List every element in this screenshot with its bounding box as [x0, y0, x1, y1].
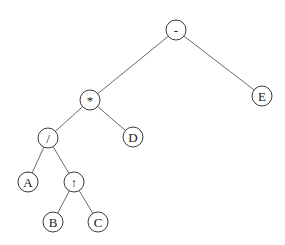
edge-minus-E — [184, 36, 254, 90]
tree-node-D: D — [123, 127, 143, 147]
tree-node-E: E — [252, 86, 272, 106]
node-label: ↑ — [71, 175, 78, 190]
edge-pow-C — [79, 191, 93, 214]
node-label: E — [258, 89, 266, 104]
node-label: / — [46, 131, 50, 146]
expression-tree-diagram: -*E/DA↑BC — [0, 0, 285, 245]
edge-mul-D — [98, 107, 126, 131]
tree-node-div: / — [38, 128, 58, 148]
edge-div-A — [32, 147, 44, 173]
node-label: - — [174, 23, 178, 38]
edge-pow-B — [58, 191, 70, 213]
nodes-layer: -*E/DA↑BC — [18, 20, 272, 232]
node-label: B — [49, 215, 58, 230]
edge-div-pow — [53, 147, 69, 174]
edge-mul-div — [55, 107, 82, 132]
edge-minus-mul — [98, 36, 168, 93]
node-label: A — [23, 175, 33, 190]
tree-node-C: C — [88, 212, 108, 232]
node-label: C — [94, 215, 103, 230]
tree-node-minus: - — [166, 20, 186, 40]
tree-node-A: A — [18, 172, 38, 192]
node-label: * — [87, 93, 94, 108]
tree-node-B: B — [43, 212, 63, 232]
node-label: D — [128, 130, 137, 145]
tree-node-pow: ↑ — [64, 172, 84, 192]
tree-node-mul: * — [80, 90, 100, 110]
